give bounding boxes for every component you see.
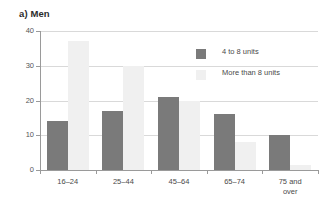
- bar: [68, 41, 89, 170]
- bar: [123, 66, 144, 170]
- bar-group: [47, 31, 89, 170]
- y-axis-labels: 010203040: [0, 0, 36, 200]
- x-axis-tick-mark: [207, 170, 208, 174]
- bar: [214, 114, 235, 170]
- x-axis-tick-mark: [96, 170, 97, 174]
- legend-item-label: More than 8 units: [222, 68, 280, 77]
- x-axis-tick-mark: [318, 170, 319, 174]
- legend-item[interactable]: 4 to 8 units: [196, 45, 318, 66]
- y-axis-tick-mark: [36, 101, 41, 102]
- legend-item-label: 4 to 8 units: [222, 47, 259, 56]
- y-axis-tick-label: 30: [0, 61, 34, 70]
- x-axis-tick-mark: [262, 170, 263, 174]
- y-axis-tick-label: 40: [0, 26, 34, 35]
- bar-group: [102, 31, 144, 170]
- bar: [290, 165, 311, 170]
- bar-chart: a) Men 010203040 16–2425–4445–6465–7475 …: [0, 0, 331, 200]
- x-axis-tick-label: 16–24: [40, 177, 96, 187]
- legend-item[interactable]: More than 8 units: [196, 66, 318, 87]
- chart-legend: 4 to 8 unitsMore than 8 units: [196, 45, 318, 87]
- y-axis-tick-mark: [36, 31, 41, 32]
- bar: [179, 101, 200, 171]
- bar: [269, 135, 290, 170]
- x-axis-tick-label: 45–64: [151, 177, 207, 187]
- y-axis-tick-label: 10: [0, 130, 34, 139]
- bar: [235, 142, 256, 170]
- x-axis-tick-mark: [151, 170, 152, 174]
- legend-swatch-icon: [196, 70, 206, 80]
- bar: [47, 121, 68, 170]
- bar-group: [158, 31, 200, 170]
- gridline: [40, 170, 318, 171]
- y-axis-tick-mark: [36, 170, 41, 171]
- x-axis-tick-label: 25–44: [96, 177, 152, 187]
- bar: [102, 111, 123, 170]
- y-axis-tick-label: 20: [0, 96, 34, 105]
- x-axis-tick-label: 65–74: [207, 177, 263, 187]
- x-axis-tick-label: 75 and over: [262, 177, 318, 197]
- bar: [158, 97, 179, 170]
- y-axis-tick-mark: [36, 66, 41, 67]
- y-axis-tick-mark: [36, 135, 41, 136]
- legend-swatch-icon: [196, 49, 206, 59]
- y-axis-tick-label: 0: [0, 165, 34, 174]
